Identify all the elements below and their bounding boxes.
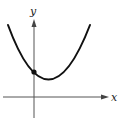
y-axis-label: y (29, 5, 37, 18)
graph-canvas: y x (0, 0, 122, 134)
x-axis-label: x (111, 91, 118, 104)
x-axis-arrow-icon (101, 95, 109, 100)
y-intercept-point (31, 69, 36, 74)
parabola-curve (8, 25, 90, 80)
parabola-graph: y x (0, 0, 122, 134)
y-axis-arrow-icon (32, 19, 37, 27)
